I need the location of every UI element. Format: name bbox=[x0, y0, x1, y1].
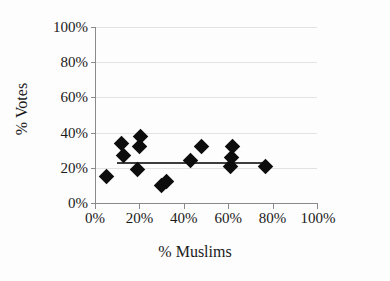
chart-screenshot: 100% 80% 60% 40% 20% 0% 0% 20% 40% 60% 8… bbox=[0, 0, 390, 281]
x-tick bbox=[95, 204, 96, 209]
y-tick bbox=[91, 27, 96, 28]
data-point bbox=[129, 162, 145, 178]
data-point bbox=[258, 158, 274, 174]
gridline-40 bbox=[95, 133, 317, 134]
x-tick bbox=[273, 204, 274, 209]
y-tick bbox=[91, 62, 96, 63]
y-tick-label: 80% bbox=[28, 55, 88, 70]
data-point bbox=[98, 169, 114, 185]
x-tick bbox=[317, 204, 318, 209]
y-tick-label: 20% bbox=[28, 161, 88, 176]
x-tick bbox=[139, 204, 140, 209]
y-axis-line bbox=[95, 27, 96, 204]
gridline-60 bbox=[95, 97, 317, 98]
y-axis-title: % Votes bbox=[13, 49, 31, 169]
data-point bbox=[194, 139, 210, 155]
y-tick-label: 60% bbox=[28, 90, 88, 105]
y-tick bbox=[91, 133, 96, 134]
y-tick-label: 100% bbox=[28, 20, 88, 35]
y-tick-label: 40% bbox=[28, 126, 88, 141]
y-tick bbox=[91, 97, 96, 98]
x-tick bbox=[184, 204, 185, 209]
gridline-100 bbox=[95, 27, 317, 28]
x-tick bbox=[228, 204, 229, 209]
x-tick-label: 100% bbox=[288, 210, 348, 226]
x-axis-title: % Muslims bbox=[0, 243, 390, 261]
x-axis-line bbox=[95, 203, 318, 204]
gridline-80 bbox=[95, 62, 317, 63]
y-tick-label: 0% bbox=[28, 196, 88, 211]
plot-area bbox=[95, 27, 317, 203]
y-tick bbox=[91, 168, 96, 169]
data-point bbox=[183, 153, 199, 169]
gridline-20 bbox=[95, 168, 317, 169]
